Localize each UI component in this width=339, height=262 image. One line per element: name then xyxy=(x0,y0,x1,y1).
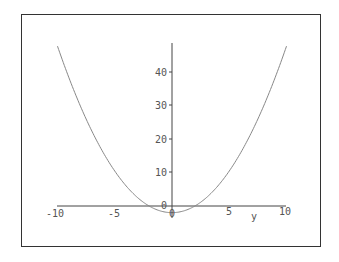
y-tick-label: 30 xyxy=(155,100,167,111)
x-tick-label: 10 xyxy=(279,206,291,217)
x-axis-label: y xyxy=(251,211,257,222)
y-tick-label: 0 xyxy=(161,200,167,211)
x-tick-label: -5 xyxy=(108,208,120,219)
y-tick-label: 40 xyxy=(155,67,167,78)
y-tick-label: 20 xyxy=(155,134,167,145)
y-tick-label: 10 xyxy=(155,167,167,178)
x-tick-label: -10 xyxy=(46,208,64,219)
x-tick-label: 0 xyxy=(169,208,175,219)
x-tick-label: 5 xyxy=(226,206,232,217)
plot-area: -10 -5 0 5 10 y 0 10 20 30 40 xyxy=(0,0,339,262)
